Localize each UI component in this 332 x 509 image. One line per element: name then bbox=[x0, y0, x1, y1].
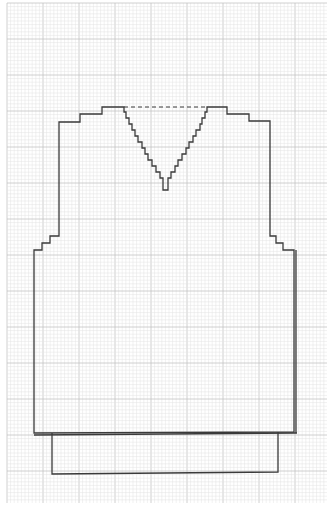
knitting-chart bbox=[0, 0, 332, 509]
